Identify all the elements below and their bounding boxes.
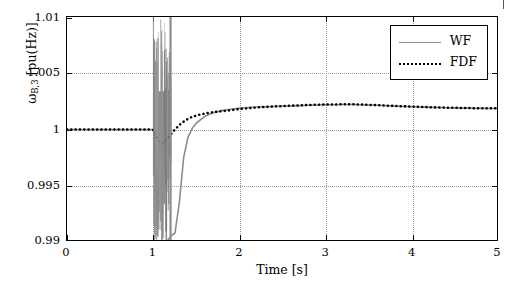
y-axis-label: ωB,3 [pu(Hz)] [24,0,40,158]
x-axis-label: Time [s] [66,262,498,277]
legend: WF FDF [390,25,488,80]
xtick-label-5: 5 [493,245,500,259]
y-axis-label-unit: [pu(Hz)] [24,22,39,79]
legend-swatch-fdf [399,57,441,69]
y-axis-label-omega: ω [24,94,39,104]
ytick-label-0.995: 0.995 [12,178,60,192]
xtick-label-0: 0 [62,245,69,259]
ytick-label-0.99: 0.99 [12,233,60,247]
legend-swatch-wf [399,36,441,48]
top-right-tick-mark [503,0,504,9]
legend-label-fdf: FDF [450,56,477,69]
legend-label-wf: WF [450,35,472,48]
y-axis-label-subscript: B,3 [30,79,40,93]
legend-item-fdf[interactable]: FDF [399,52,477,73]
xtick-label-3: 3 [322,245,329,259]
legend-item-wf[interactable]: WF [399,31,477,52]
xtick-label-1: 1 [149,245,156,259]
plot-area: WF FDF [66,16,498,241]
xtick-label-4: 4 [408,245,415,259]
xtick-label-2: 2 [235,245,242,259]
chart-figure: WF FDF 0 1 2 3 4 5 0.99 0.995 1 1.005 1.… [0,0,518,289]
